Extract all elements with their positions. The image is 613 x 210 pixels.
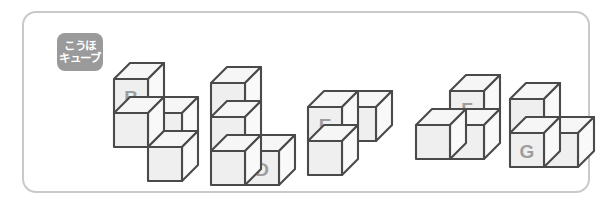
cube-face-front xyxy=(114,113,148,147)
badge-line-1: こうほ xyxy=(64,40,96,52)
cube xyxy=(308,125,358,175)
cube-candidates-panel: こうほ キューブ BDEFG xyxy=(22,11,590,193)
cube-letter-label: G xyxy=(520,141,535,162)
screenshot-root: こうほ キューブ BDEFG xyxy=(0,0,613,210)
cube-face-front xyxy=(148,147,182,181)
figure-g[interactable]: G xyxy=(504,77,600,173)
figure-f[interactable]: F xyxy=(410,69,506,165)
figure-e[interactable]: E xyxy=(302,85,398,181)
figure-d[interactable]: D xyxy=(205,61,301,191)
badge-line-2: キューブ xyxy=(59,52,101,64)
cube-face-front xyxy=(211,151,245,185)
cube xyxy=(211,135,261,185)
cube-face-front xyxy=(308,141,342,175)
figure-b[interactable]: B xyxy=(108,57,204,187)
cube: G xyxy=(510,117,560,167)
cube xyxy=(416,109,466,159)
cube-face-front xyxy=(416,125,450,159)
section-badge: こうほ キューブ xyxy=(57,33,103,71)
cube xyxy=(148,131,198,181)
